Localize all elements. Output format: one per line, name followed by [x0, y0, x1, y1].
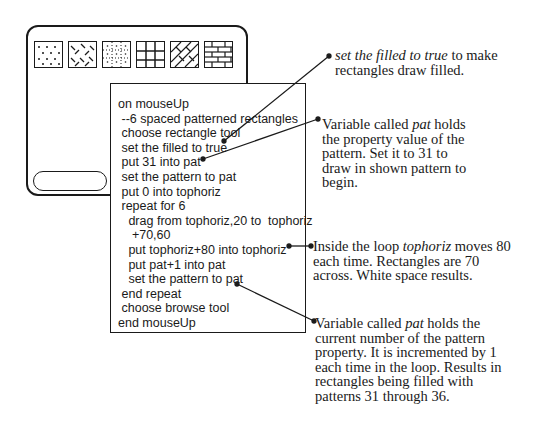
pattern-tile-32 — [68, 41, 97, 68]
annotation-text: holds the — [424, 315, 480, 331]
annotation-italic: set the filled to true — [335, 47, 448, 63]
diagonal-bricks-pattern-icon — [171, 42, 198, 67]
annotation-pat-initial: Variable called pat holds the property v… — [322, 117, 466, 190]
annotation-text: Variable called — [315, 315, 405, 331]
annotation-italic: pat — [405, 315, 424, 331]
script-line: set the pattern to pat — [118, 170, 305, 185]
annotation-text: patterns 31 through 36. — [315, 389, 501, 404]
annotation-text: to make — [448, 47, 498, 63]
annotation-text: Inside the loop — [313, 238, 403, 254]
script-line: end mouseUp — [118, 316, 305, 331]
dashes-pattern-icon — [69, 42, 96, 67]
script-line: --6 spaced patterned rectangles — [118, 112, 305, 127]
annotation-text: each time. Rectangles are 70 — [313, 254, 511, 269]
bricks-pattern-icon — [205, 42, 232, 67]
annotation-text: the property value of the — [322, 132, 466, 147]
script-listing: on mouseUp --6 spaced patterned rectangl… — [110, 83, 306, 333]
annotation-text: each time in the loop. Results in — [315, 360, 501, 375]
annotation-tophoriz: Inside the loop tophoriz moves 80 each t… — [313, 239, 511, 283]
card-button[interactable] — [33, 171, 107, 191]
script-line: put tophoriz+80 into tophoriz — [118, 243, 305, 258]
dots-pattern-icon — [35, 42, 62, 67]
annotation-italic: tophoriz — [403, 238, 451, 254]
pattern-tile-35 — [170, 41, 199, 68]
annotation-italic: pat — [412, 116, 431, 132]
annotation-text: current number of the pattern — [315, 331, 501, 346]
annotation-text: begin. — [322, 175, 466, 190]
dotted-grid-pattern-icon — [103, 42, 130, 67]
grid-pattern-icon — [137, 42, 164, 67]
script-line: on mouseUp — [118, 97, 305, 112]
script-line: repeat for 6 — [118, 199, 305, 214]
script-line: choose rectangle tool — [118, 126, 305, 141]
script-line: choose browse tool — [118, 301, 305, 316]
pattern-tile-33 — [102, 41, 131, 68]
script-line: put pat+1 into pat — [118, 258, 305, 273]
annotation-text: rectangles being filled with — [315, 374, 501, 389]
annotation-text: rectangles draw filled. — [335, 63, 498, 78]
annotation-text: moves 80 — [451, 238, 511, 254]
pattern-tile-36 — [204, 41, 233, 68]
annotation-text: pattern. Set it to 31 to — [322, 146, 466, 161]
pattern-tile-34 — [136, 41, 165, 68]
script-line: set the pattern to pat — [118, 272, 305, 287]
pattern-tile-31 — [34, 41, 63, 68]
script-line: put 31 into pat — [118, 155, 305, 170]
script-line: put 0 into tophoriz — [118, 185, 305, 200]
annotation-text: property. It is incremented by 1 — [315, 345, 501, 360]
annotation-filled: set the filled to true to make rectangle… — [335, 48, 498, 77]
script-line: set the filled to true — [118, 141, 305, 156]
annotation-text: across. White space results. — [313, 268, 511, 283]
annotation-pat-increment: Variable called pat holds the current nu… — [315, 316, 501, 403]
script-line: end repeat — [118, 287, 305, 302]
annotation-text: holds — [431, 116, 466, 132]
script-line: +70,60 — [118, 228, 305, 243]
script-line: drag from tophoriz,20 to tophoriz — [118, 214, 305, 229]
annotation-text: Variable called — [322, 116, 412, 132]
annotation-text: draw in shown pattern to — [322, 161, 466, 176]
